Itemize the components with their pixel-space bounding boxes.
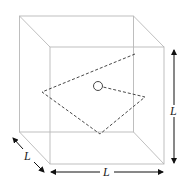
cube-edges <box>20 16 165 164</box>
dimension-arrows <box>13 50 174 172</box>
depth-label: L <box>24 150 31 162</box>
cube-diagram: L L L <box>0 0 187 187</box>
dashed-plane <box>42 54 145 134</box>
width-label: L <box>103 166 110 178</box>
particle-circle <box>94 82 103 91</box>
height-label: L <box>170 105 177 117</box>
